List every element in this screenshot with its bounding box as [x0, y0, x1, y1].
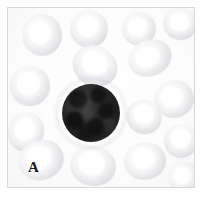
rbc-top-far-right: [159, 7, 195, 44]
rbc-left-upper: [9, 65, 52, 108]
panel-label: A: [28, 160, 39, 175]
figure-panel: A: [0, 0, 207, 199]
rbc-bottom-far-right: [165, 159, 195, 188]
rbc-bottom-center: [67, 142, 119, 188]
leukocyte-chromatin-texture: [62, 84, 120, 142]
rbc-top-left: [19, 11, 64, 58]
leukocyte-cell: [62, 84, 120, 142]
micrograph-frame: A: [7, 7, 195, 188]
rbc-bottom-right: [122, 140, 168, 182]
